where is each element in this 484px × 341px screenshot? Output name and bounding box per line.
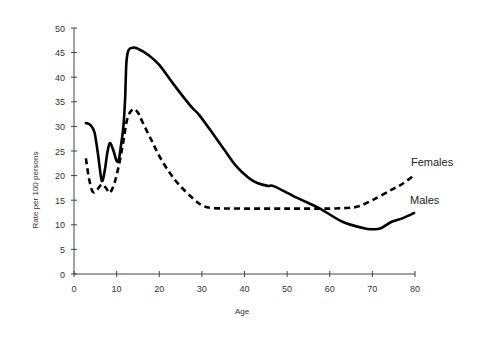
y-tick-label: 10: [55, 220, 65, 230]
y-tick-label: 30: [55, 122, 65, 132]
y-tick-label: 45: [55, 48, 65, 58]
x-tick-label: 30: [197, 284, 207, 294]
line-chart: 05101520253035404550 01020304050607080 A…: [0, 0, 484, 341]
x-tick-label: 10: [112, 284, 122, 294]
x-tick-label: 40: [239, 284, 249, 294]
x-tick-label: 50: [282, 284, 292, 294]
legend-label-females: Females: [411, 156, 454, 168]
x-axis-title: Age: [235, 307, 250, 316]
y-axis: 05101520253035404550: [55, 24, 77, 280]
y-tick-label: 5: [60, 245, 65, 255]
y-tick-label: 15: [55, 196, 65, 206]
y-tick-label: 25: [55, 147, 65, 157]
series-layer: [86, 48, 414, 230]
x-tick-label: 20: [154, 284, 164, 294]
y-tick-label: 40: [55, 73, 65, 83]
x-tick-label: 70: [367, 284, 377, 294]
series-line-males: [86, 48, 414, 230]
series-line-females: [86, 109, 414, 209]
y-tick-label: 20: [55, 171, 65, 181]
legend-label-males: Males: [410, 194, 440, 206]
x-tick-label: 0: [71, 284, 76, 294]
x-tick-label: 80: [410, 284, 420, 294]
x-axis: 01020304050607080: [71, 271, 420, 294]
x-tick-label: 60: [325, 284, 335, 294]
y-axis-title: Rate per 100 persons: [31, 152, 40, 229]
y-tick-label: 50: [55, 24, 65, 34]
y-tick-label: 35: [55, 97, 65, 107]
y-tick-label: 0: [60, 270, 65, 280]
